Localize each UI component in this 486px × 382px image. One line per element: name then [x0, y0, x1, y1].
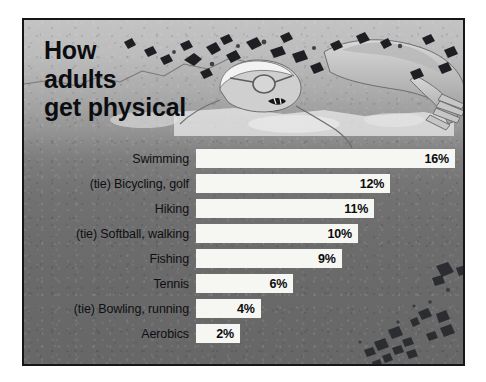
bar-value-label: 16%: [425, 152, 455, 166]
bar-category-label: Fishing: [24, 252, 196, 266]
chart-row: (tie) Softball, walking10%: [24, 221, 465, 246]
bar-value-label: 11%: [344, 202, 374, 216]
bar-track: 9%: [196, 246, 465, 271]
chart-row: Swimming16%: [24, 146, 465, 171]
bar-track: 6%: [196, 271, 465, 296]
infographic-panel: How adults get physical Swimming16%(tie)…: [22, 18, 465, 366]
bar-category-label: (tie) Bowling, running: [24, 302, 196, 316]
bar: 16%: [196, 149, 455, 168]
bar-category-label: Swimming: [24, 152, 196, 166]
chart-row: Fishing9%: [24, 246, 465, 271]
chart-row: (tie) Bicycling, golf12%: [24, 171, 465, 196]
bar: 6%: [196, 274, 293, 293]
bar: 2%: [196, 324, 240, 343]
bar-track: 2%: [196, 321, 465, 346]
bar-value-label: 10%: [327, 227, 357, 241]
chart-row: Tennis6%: [24, 271, 465, 296]
bar-category-label: Tennis: [24, 277, 196, 291]
bar-track: 10%: [196, 221, 465, 246]
chart-row: (tie) Bowling, running4%: [24, 296, 465, 321]
bar: 9%: [196, 249, 342, 268]
bar-value-label: 6%: [269, 277, 293, 291]
bar-value-label: 4%: [237, 302, 261, 316]
bar-value-label: 2%: [216, 327, 240, 341]
bar-category-label: (tie) Softball, walking: [24, 227, 196, 241]
chart-row: Aerobics2%: [24, 321, 465, 346]
bar: 4%: [196, 299, 261, 318]
bar: 11%: [196, 199, 374, 218]
bar-value-label: 9%: [318, 252, 342, 266]
chart-row: Hiking11%: [24, 196, 465, 221]
bar-track: 12%: [196, 171, 465, 196]
bar-category-label: (tie) Bicycling, golf: [24, 177, 196, 191]
page-title: How adults get physical: [44, 36, 186, 122]
bar-category-label: Aerobics: [24, 327, 196, 341]
bar-track: 11%: [196, 196, 465, 221]
bar-category-label: Hiking: [24, 202, 196, 216]
bar-track: 4%: [196, 296, 465, 321]
bar: 12%: [196, 174, 390, 193]
bar-value-label: 12%: [360, 177, 390, 191]
bar: 10%: [196, 224, 358, 243]
bar-chart: Swimming16%(tie) Bicycling, golf12%Hikin…: [24, 146, 465, 346]
bar-track: 16%: [196, 146, 465, 171]
